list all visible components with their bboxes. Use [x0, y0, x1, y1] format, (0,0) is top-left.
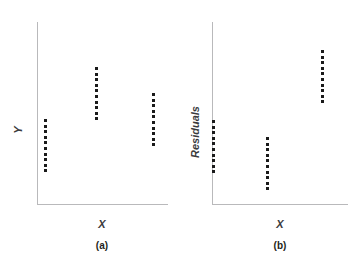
data-point	[95, 89, 98, 92]
dot-column-a-3	[152, 93, 155, 146]
data-point	[321, 61, 324, 64]
data-point	[321, 89, 324, 92]
data-point	[152, 99, 155, 102]
data-point	[212, 159, 215, 162]
y-axis-label-a: Y	[12, 110, 24, 150]
data-point	[212, 165, 215, 168]
data-point	[152, 127, 155, 130]
data-point	[321, 67, 324, 70]
data-point	[95, 101, 98, 104]
data-point	[212, 137, 215, 140]
figure-two-panel-scatter: Y X (a) Residuals X (b)	[0, 0, 360, 271]
x-axis-label-a: X	[82, 218, 122, 230]
data-point	[266, 176, 269, 179]
data-point	[212, 126, 215, 129]
x-axis-label-b: X	[260, 218, 300, 230]
data-point	[152, 138, 155, 141]
data-point	[321, 56, 324, 59]
data-point	[95, 95, 98, 98]
data-point	[44, 136, 47, 139]
data-point	[95, 67, 98, 70]
panel-a: Y X (a)	[0, 0, 180, 271]
dot-column-a-1	[44, 119, 47, 172]
data-point	[266, 148, 269, 151]
data-point	[44, 141, 47, 144]
data-point	[95, 73, 98, 76]
data-point	[152, 143, 155, 146]
data-point	[152, 104, 155, 107]
data-point	[44, 130, 47, 133]
data-point	[44, 119, 47, 122]
data-point	[266, 159, 269, 162]
data-point	[152, 110, 155, 113]
data-point	[44, 158, 47, 161]
data-point	[212, 131, 215, 134]
data-point	[152, 121, 155, 124]
data-point	[95, 78, 98, 81]
y-axis-line-a	[37, 22, 38, 205]
data-point	[321, 78, 324, 81]
data-point	[95, 112, 98, 115]
plot-area-b: Residuals X (b)	[180, 0, 360, 271]
data-point	[266, 187, 269, 190]
data-point	[95, 84, 98, 87]
data-point	[266, 137, 269, 140]
data-point	[44, 125, 47, 128]
dot-column-b-3	[321, 50, 324, 103]
data-point	[321, 84, 324, 87]
data-point	[152, 132, 155, 135]
data-point	[212, 142, 215, 145]
panel-caption-a: (a)	[82, 240, 122, 251]
dot-column-a-2	[95, 67, 98, 120]
data-point	[321, 100, 324, 103]
data-point	[95, 117, 98, 120]
data-point	[266, 154, 269, 157]
data-point	[212, 154, 215, 157]
data-point	[95, 106, 98, 109]
data-point	[212, 120, 215, 123]
dot-column-b-1	[212, 120, 215, 173]
data-point	[266, 182, 269, 185]
data-point	[321, 50, 324, 53]
data-point	[44, 147, 47, 150]
panel-b: Residuals X (b)	[180, 0, 360, 271]
data-point	[266, 143, 269, 146]
data-point	[321, 95, 324, 98]
plot-area-a: Y X (a)	[0, 0, 180, 271]
data-point	[212, 170, 215, 173]
y-axis-label-b: Residuals	[189, 101, 201, 163]
data-point	[321, 72, 324, 75]
panel-caption-b: (b)	[260, 240, 300, 251]
x-axis-line-b	[212, 204, 348, 205]
data-point	[266, 165, 269, 168]
data-point	[152, 93, 155, 96]
data-point	[152, 115, 155, 118]
data-point	[44, 169, 47, 172]
dot-column-b-2	[266, 137, 269, 190]
data-point	[44, 153, 47, 156]
data-point	[44, 164, 47, 167]
data-point	[212, 148, 215, 151]
x-axis-line-a	[37, 204, 168, 205]
data-point	[266, 171, 269, 174]
y-axis-line-b	[212, 22, 213, 205]
